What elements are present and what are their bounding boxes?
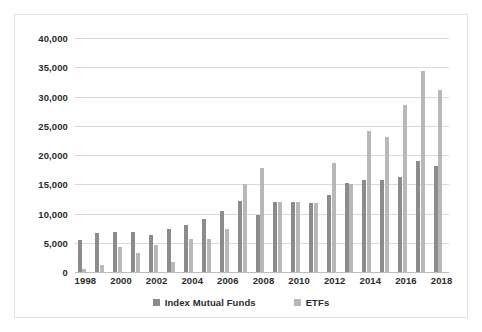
bar-group [217,38,235,272]
legend-item[interactable]: ETFs [294,297,330,308]
bar [207,239,211,272]
x-axis-tick-label: 1998 [75,275,97,286]
bar [171,262,175,272]
x-axis-tick-label: 2012 [324,275,346,286]
bar [385,137,389,272]
bar-group [235,38,253,272]
bar [421,71,425,272]
bar [403,105,407,272]
bar-group [289,38,307,272]
bar-group [93,38,111,272]
bar [78,240,82,272]
bar [327,195,331,272]
bar [243,184,247,272]
bar [95,233,99,272]
bar [184,225,188,272]
bar [256,215,260,272]
bar [349,184,353,272]
bar [154,245,158,272]
chart-card: 40,00035,00030,00025,00020,00015,00010,0… [14,14,468,318]
legend-swatch-icon [153,299,160,306]
bar-group [75,38,93,272]
bar-group [431,38,449,272]
legend-item-label: Index Mutual Funds [165,297,256,308]
x-axis: 1998200020022004200620082010201220142016… [75,275,449,291]
bar-group [378,38,396,272]
bar-group [307,38,325,272]
bar [260,168,264,272]
y-axis-tick-label: 0 [63,267,68,278]
bar [131,232,135,272]
bar [118,247,122,272]
bar-group [396,38,414,272]
y-axis-tick-label: 30,000 [38,91,68,102]
x-axis-tick-label: 2002 [146,275,168,286]
y-axis-tick-label: 15,000 [38,179,68,190]
bar [149,235,153,272]
legend-item-label: ETFs [306,297,330,308]
bar-group [271,38,289,272]
bar [345,183,349,273]
x-axis-tick-label: 2018 [431,275,453,286]
bar-group [360,38,378,272]
bar-group [128,38,146,272]
bar [291,202,295,272]
bar [438,90,442,272]
bar-group [111,38,129,272]
y-axis-tick-label: 20,000 [38,150,68,161]
legend-item[interactable]: Index Mutual Funds [153,297,256,308]
bar [362,180,366,272]
bar [416,161,420,272]
bar [82,269,86,273]
bar [434,166,438,272]
x-axis-tick-label: 2014 [360,275,382,286]
y-axis-tick-label: 25,000 [38,120,68,131]
bar [296,202,300,272]
chart-legend: Index Mutual FundsETFs [15,297,467,308]
bar-group [413,38,431,272]
bar [238,201,242,272]
bar-group [253,38,271,272]
bar [398,177,402,272]
y-axis-tick-label: 5,000 [44,237,68,248]
bar [314,203,318,272]
x-axis-tick-label: 2016 [395,275,417,286]
gridline: 0 [75,272,449,273]
bar [167,229,171,272]
plot-area: 40,00035,00030,00025,00020,00015,00010,0… [75,38,449,272]
bar-group [324,38,342,272]
bar [380,180,384,272]
y-axis-tick-label: 35,000 [38,62,68,73]
y-axis-tick-label: 40,000 [38,33,68,44]
x-axis-tick-label: 2010 [288,275,310,286]
x-axis-tick-label: 2004 [181,275,203,286]
bar [278,202,282,272]
bar [225,229,229,272]
bar-group [146,38,164,272]
bar [332,163,336,272]
bar [220,211,224,272]
bar [189,239,193,272]
x-axis-tick-label: 2008 [253,275,275,286]
bar-group [164,38,182,272]
y-axis-tick-label: 10,000 [38,208,68,219]
bar-groups [75,38,449,272]
bar [273,202,277,272]
bar-group [182,38,200,272]
bar [202,219,206,272]
bar [309,203,313,272]
bar [113,232,117,272]
bar-group [342,38,360,272]
legend-swatch-icon [294,299,301,306]
x-axis-tick-label: 2000 [110,275,132,286]
bar [100,265,104,272]
bar [367,131,371,272]
bar [136,253,140,272]
x-axis-tick-label: 2006 [217,275,239,286]
bar-group [200,38,218,272]
